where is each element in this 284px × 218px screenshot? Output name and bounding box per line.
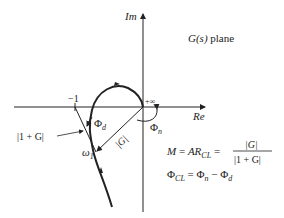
equation-phi-cl: ΦCL = Φn − Φd [167,168,233,183]
one-plus-g-label: |1 + G| [17,131,44,142]
diagram-canvas: Im Re G(s) plane −1 +∞ Φd Φn |G| |1 + G|… [0,0,284,218]
plus-infinity-label: +∞ [145,97,156,106]
equation-m: M = ARCL = [166,145,220,160]
nyquist-diagram: Im Re G(s) plane −1 +∞ Φd Φn |G| |1 + G|… [0,0,284,218]
plane-label: G(s) plane [188,32,234,45]
equation-m-denominator: |1 + G| [234,154,261,165]
phi-d-label: Φd [94,117,107,132]
minus-one-label: −1 [68,93,79,104]
phi-n-label: Φn [150,121,162,136]
im-axis-label: Im [124,10,137,22]
abs-g-label: |G| [113,133,130,150]
re-axis-label: Re [192,110,205,122]
phi-n-arc [137,109,157,121]
equation-m-numerator: |G| [245,139,258,150]
one-plus-g-leader [57,131,83,136]
